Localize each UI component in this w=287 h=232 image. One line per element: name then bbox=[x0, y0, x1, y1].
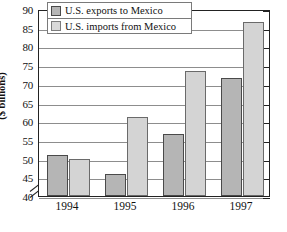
axis-tick bbox=[263, 198, 270, 199]
x-axis-label-1995: 1995 bbox=[114, 200, 137, 212]
y-axis-tick-label: 45 bbox=[0, 173, 33, 184]
y-axis-tick-label: 75 bbox=[0, 61, 33, 72]
axis-tick bbox=[263, 161, 270, 162]
bar-1994-exports bbox=[47, 155, 68, 196]
axis-tick bbox=[263, 86, 270, 87]
y-axis-tick-label: 80 bbox=[0, 42, 33, 53]
axis-tick bbox=[263, 11, 270, 12]
axis-tick bbox=[263, 105, 270, 106]
x-axis-label-1994: 1994 bbox=[56, 200, 79, 212]
y-axis-tick-label: 70 bbox=[0, 79, 33, 90]
axis-tick bbox=[263, 48, 270, 49]
gridline bbox=[39, 198, 269, 199]
y-axis-tick-label: 90 bbox=[0, 5, 33, 16]
bar-1996-exports bbox=[163, 134, 184, 196]
y-axis-tick-label: 40 bbox=[0, 192, 33, 203]
y-axis-tick-label: 65 bbox=[0, 98, 33, 109]
bar-1994-imports bbox=[69, 159, 90, 196]
y-axis-tick-label: 60 bbox=[0, 117, 33, 128]
gridline bbox=[39, 67, 269, 68]
bar-1995-exports bbox=[105, 174, 126, 196]
bar-1995-imports bbox=[127, 117, 148, 196]
axis-tick bbox=[263, 179, 270, 180]
axis-tick bbox=[263, 67, 270, 68]
legend-label-exports: U.S. exports to Mexico bbox=[65, 5, 163, 16]
plot-area bbox=[38, 10, 270, 197]
legend-item-imports: U.S. imports from Mexico bbox=[47, 18, 192, 34]
legend-swatch-imports-icon bbox=[51, 21, 61, 31]
x-axis-label-1997: 1997 bbox=[230, 200, 253, 212]
chart-legend: U.S. exports to Mexico U.S. imports from… bbox=[47, 2, 192, 34]
bar-1996-imports bbox=[185, 71, 206, 196]
axis-tick bbox=[263, 142, 270, 143]
legend-swatch-exports-icon bbox=[51, 6, 61, 16]
gridline bbox=[39, 48, 269, 49]
y-axis-tick-label: 50 bbox=[0, 154, 33, 165]
axis-tick bbox=[263, 30, 270, 31]
bar-1997-imports bbox=[243, 22, 264, 196]
y-axis-tick-label: 85 bbox=[0, 23, 33, 34]
legend-label-imports: U.S. imports from Mexico bbox=[65, 21, 176, 32]
y-axis-tick-label: 55 bbox=[0, 135, 33, 146]
axis-tick bbox=[263, 123, 270, 124]
x-axis-label-1996: 1996 bbox=[172, 200, 195, 212]
bar-1997-exports bbox=[221, 78, 242, 196]
legend-item-exports: U.S. exports to Mexico bbox=[47, 2, 192, 18]
bar-chart: ($ billions) 4045505560657075808590 1994… bbox=[0, 0, 287, 232]
